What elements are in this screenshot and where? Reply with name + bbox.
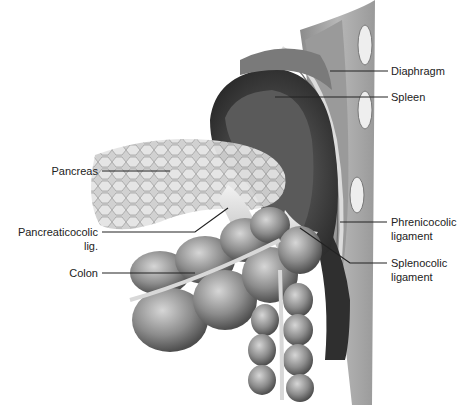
label-phrenicocolic-line1: Phrenicocolic: [391, 216, 456, 229]
label-pancreaticocolic-line1: Pancreaticocolic: [0, 226, 98, 239]
label-phrenicocolic-line2: ligament: [391, 230, 433, 243]
label-colon: Colon: [40, 267, 98, 280]
label-splenocolic-line1: Splenocolic: [391, 257, 447, 270]
colon: [130, 207, 322, 402]
label-diaphragm: Diaphragm: [391, 65, 445, 78]
anatomy-figure: Diaphragm Spleen Pancreas Pancreaticocol…: [0, 0, 474, 405]
label-spleen: Spleen: [391, 91, 425, 104]
label-pancreas: Pancreas: [40, 165, 98, 178]
label-splenocolic-line2: ligament: [391, 271, 433, 284]
label-pancreaticocolic-line2: lig.: [0, 240, 98, 253]
illustration: [0, 0, 474, 405]
